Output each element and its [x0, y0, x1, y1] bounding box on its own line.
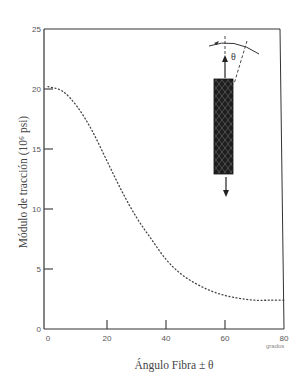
x-tick-label: 40 — [162, 334, 171, 343]
theta-label: θ — [231, 51, 236, 62]
x-tick-label: 20 — [103, 334, 112, 343]
arrowhead-down-icon — [223, 190, 229, 197]
braided-specimen — [214, 79, 233, 174]
y-tick-label: 25 — [32, 25, 41, 34]
y-axis-title: Módulo de tracción (10⁶ psi) — [17, 116, 30, 249]
y-tick-label: 0 — [37, 325, 42, 334]
y-tick-label: 20 — [32, 85, 41, 94]
x-unit-label: grados — [266, 343, 284, 349]
x-tick-label: 80 — [280, 334, 289, 343]
x-axis-ticks: 020406080 — [46, 320, 289, 343]
x-tick-label: 60 — [221, 334, 230, 343]
y-tick-label: 5 — [37, 265, 42, 274]
right-border — [280, 29, 284, 329]
arrowhead-up-icon — [222, 55, 228, 62]
y-tick-label: 10 — [32, 205, 41, 214]
modulus-curve — [48, 87, 284, 301]
x-tick-label: 0 — [46, 334, 51, 343]
data-curve — [48, 87, 284, 301]
y-tick-label: 15 — [32, 145, 41, 154]
fiber-direction-line — [234, 41, 247, 84]
plot-frame — [44, 29, 284, 329]
tensile-modulus-chart: 0510152025 020406080 grados θ Módulo de … — [0, 0, 304, 388]
y-axis-ticks: 0510152025 — [32, 25, 53, 334]
x-axis-title: Ángulo Fibra ± θ — [134, 358, 214, 372]
fiber-specimen-diagram: θ — [209, 36, 259, 197]
